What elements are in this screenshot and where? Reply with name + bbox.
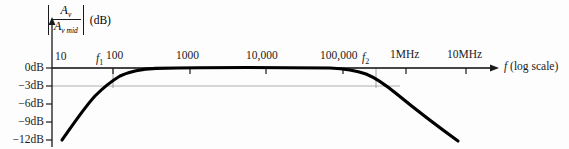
y-tick-label-minus6db: −6dB xyxy=(0,97,44,109)
x-tick-label-100: 100 xyxy=(106,49,123,61)
y-axis-unit: (dB) xyxy=(90,14,111,26)
fraction-numerator: Av xyxy=(58,4,75,19)
numerator-symbol: A xyxy=(61,3,68,17)
frequency-response-curve xyxy=(62,68,458,141)
frequency-response-figure: Av Av mid (dB) 0dB −3dB −6dB −9dB −12dB … xyxy=(0,0,569,149)
x-axis-caption-symbol: f xyxy=(504,60,507,72)
x-axis-caption-text: (log scale) xyxy=(510,60,558,72)
x-tick-label-1000: 1000 xyxy=(176,49,199,61)
abs-bar-left xyxy=(48,5,49,35)
f2-subscript: 2 xyxy=(365,57,369,66)
x-tick-label-10mhz: 10MHz xyxy=(447,48,482,60)
x-tick-label-100000: 100,000 xyxy=(320,49,357,61)
denominator-subscript: v mid xyxy=(61,27,77,36)
y-tick-label-minus9db: −9dB xyxy=(0,115,44,127)
y-tick-label-minus12db: −12dB xyxy=(0,133,44,145)
y-tick-label-0db: 0dB xyxy=(0,61,44,73)
x-tick-label-1mhz: 1MHz xyxy=(390,48,419,60)
x-tick-label-10000: 10,000 xyxy=(246,49,278,61)
f1-subscript: 1 xyxy=(99,58,103,67)
x-axis-arrowhead xyxy=(490,64,499,71)
y-axis-label: Av Av mid (dB) xyxy=(46,4,111,36)
x-axis-caption: f (log scale) xyxy=(504,60,558,72)
x-tick-label-10: 10 xyxy=(55,50,67,62)
marker-label-f2: f2 xyxy=(362,51,369,66)
marker-label-f1: f1 xyxy=(96,52,103,67)
gain-ratio-fraction: Av Av mid xyxy=(51,4,81,36)
fraction-denominator: Av mid xyxy=(51,20,81,35)
numerator-subscript: v xyxy=(68,10,71,19)
abs-bar-right xyxy=(83,5,84,35)
y-tick-label-minus3db: −3dB xyxy=(0,79,44,91)
